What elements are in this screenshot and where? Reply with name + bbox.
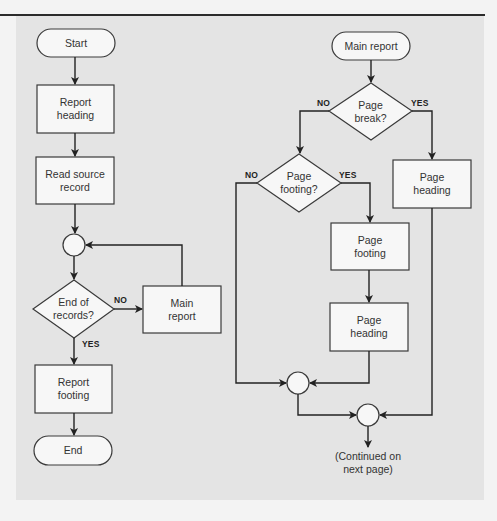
read-source-record-box — [36, 157, 114, 204]
arrow-page-footing-yes — [341, 183, 370, 222]
page-footing-diamond — [257, 154, 341, 212]
end-of-records-yes-label: YES — [82, 339, 100, 349]
page-footing-no-label: NO — [245, 170, 258, 180]
page-break-no-label: NO — [317, 98, 330, 108]
page-footing-box — [331, 223, 409, 270]
connector-left — [63, 234, 85, 256]
page-break-diamond — [329, 83, 412, 140]
page-break-yes-label: YES — [411, 98, 429, 108]
arrow-page-footing-no — [236, 183, 286, 383]
page-footing-yes-label: YES — [339, 170, 357, 180]
end-of-records-no-label: NO — [114, 295, 127, 305]
main-report-terminator — [332, 32, 410, 60]
arrow-heading-to-connector-1 — [310, 351, 369, 383]
connector-right-1 — [287, 372, 309, 394]
main-report-box — [143, 286, 221, 333]
continued-note: (Continued on next page) — [318, 450, 418, 476]
start-terminator — [37, 29, 115, 57]
arrow-page-break-no — [300, 111, 329, 153]
end-terminator — [34, 436, 112, 465]
report-heading-box — [37, 85, 114, 133]
page-heading-right-box — [393, 160, 471, 208]
report-footing-box — [35, 365, 112, 413]
flowchart-canvas — [0, 0, 497, 521]
connector-right-2 — [357, 404, 379, 426]
arrow-connector-1-to-2 — [298, 394, 356, 415]
page-heading-middle-box — [330, 303, 408, 351]
end-of-records-diamond — [33, 280, 114, 338]
arrow-page-break-yes — [412, 111, 432, 159]
arrow-main-report-loop — [86, 245, 182, 286]
